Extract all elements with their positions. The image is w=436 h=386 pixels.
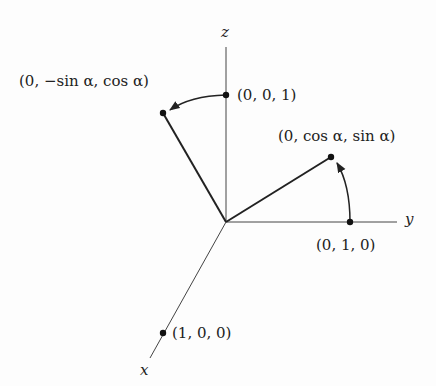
rotation-arc-e3 [170, 95, 226, 110]
point-e3 [223, 92, 229, 98]
point-e2 [347, 219, 353, 225]
point-rot-e2 [328, 154, 334, 160]
rotation-diagram: z y x (0, −sin α, cos α) (0, 0, 1) (0, c… [0, 0, 436, 386]
label-e2: (0, 1, 0) [316, 238, 375, 253]
rotated-e2-vector [226, 157, 331, 222]
y-axis-label: y [405, 212, 413, 227]
z-axis-label: z [221, 25, 229, 40]
rotated-e3-vector [163, 113, 226, 222]
label-rot-e2: (0, cos α, sin α) [278, 129, 395, 144]
point-rot-e3 [160, 110, 166, 116]
x-axis-label: x [140, 363, 148, 378]
label-rot-e3: (0, −sin α, cos α) [19, 74, 149, 89]
point-e1 [160, 330, 166, 336]
label-e1: (1, 0, 0) [172, 326, 231, 341]
rotation-arc-e2 [337, 163, 350, 222]
label-e3: (0, 0, 1) [237, 88, 296, 103]
